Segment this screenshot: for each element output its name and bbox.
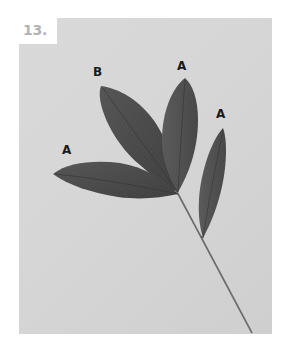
leaf-a-right <box>199 128 226 238</box>
step-number: 13. <box>23 22 47 38</box>
label-a-left: A <box>62 144 71 156</box>
leaf-branch-illustration <box>19 18 272 334</box>
label-a-top: A <box>177 60 186 72</box>
leaf-photo <box>19 18 272 334</box>
label-a-right: A <box>216 108 225 120</box>
step-number-box: 13. <box>19 18 57 44</box>
label-b: B <box>93 66 102 78</box>
